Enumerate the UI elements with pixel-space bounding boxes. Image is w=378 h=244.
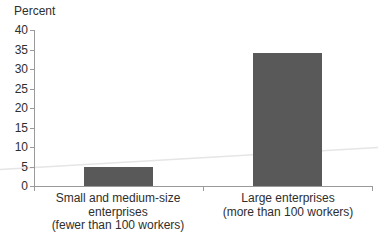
- x-tick-mark-1: [203, 186, 204, 191]
- y-tick-label-20: 20: [2, 102, 28, 114]
- y-tick-mark-35: [30, 50, 34, 51]
- category-label-small-medium-enterprises: Small and medium-size enterprises (fewer…: [28, 192, 208, 233]
- bar-small-medium-enterprises: [84, 167, 153, 187]
- y-tick-label-10: 10: [2, 141, 28, 153]
- y-tick-label-15: 15: [2, 122, 28, 134]
- bar-chart-figure: Percent 4035302520151050 Small and mediu…: [0, 0, 378, 244]
- y-tick-mark-10: [30, 147, 34, 148]
- category-label-large-enterprises: Large enterprises (more than 100 workers…: [198, 192, 378, 219]
- y-tick-mark-30: [30, 69, 34, 70]
- y-tick-label-35: 35: [2, 44, 28, 56]
- y-tick-label-25: 25: [2, 83, 28, 95]
- bar-large-enterprises: [253, 53, 322, 186]
- y-tick-mark-40: [30, 30, 34, 31]
- x-tick-mark-0: [34, 186, 35, 191]
- y-axis-title: Percent: [14, 4, 55, 18]
- y-tick-mark-15: [30, 128, 34, 129]
- y-tick-label-5: 5: [2, 161, 28, 173]
- y-tick-mark-20: [30, 108, 34, 109]
- x-tick-mark-2: [372, 186, 373, 191]
- y-axis-line: [34, 30, 35, 187]
- y-tick-mark-5: [30, 167, 34, 168]
- y-tick-label-30: 30: [2, 63, 28, 75]
- y-tick-label-40: 40: [2, 24, 28, 36]
- y-tick-label-0: 0: [2, 180, 28, 192]
- y-tick-mark-25: [30, 89, 34, 90]
